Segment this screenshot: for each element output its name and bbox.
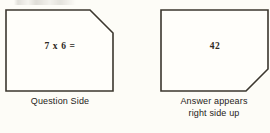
- caption-question-line-1: Question Side: [5, 96, 115, 108]
- flashcard-answer-text: 42: [160, 41, 270, 51]
- caption-answer-side: Answer appears right side up: [158, 96, 270, 119]
- flashcard-question-outline: [5, 9, 115, 93]
- caption-question-side: Question Side: [5, 96, 115, 108]
- flashcard-question[interactable]: 7 x 6 =: [5, 9, 115, 93]
- clipped-text-fragment-above: [14, 0, 76, 5]
- flashcard-diagram: 7 x 6 = 42 Question Side Answer appears …: [0, 0, 270, 133]
- flashcard-answer-outline: [160, 9, 270, 93]
- caption-answer-line-2: right side up: [158, 108, 270, 120]
- flashcard-answer[interactable]: 42: [160, 9, 270, 93]
- flashcard-question-text: 7 x 6 =: [5, 41, 115, 51]
- caption-answer-line-1: Answer appears: [158, 96, 270, 108]
